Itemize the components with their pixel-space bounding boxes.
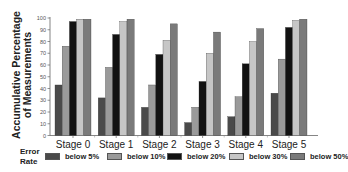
bar (105, 67, 112, 135)
legend-swatch (167, 153, 182, 160)
bar (206, 53, 213, 135)
legend-label: below 10% (127, 152, 165, 161)
y-axis-label-line-2: of Measurements (22, 11, 33, 139)
bar (141, 107, 148, 135)
legend-item: below 50% (290, 151, 348, 161)
bar (113, 34, 120, 135)
bar (62, 46, 69, 135)
x-tick-label: Stage 1 (94, 139, 138, 150)
bar (127, 19, 134, 135)
y-tick-label: 100 (37, 15, 46, 21)
legend-title-line-2: Rate (20, 157, 40, 167)
bar (55, 85, 62, 136)
bar (163, 40, 170, 135)
legend-title-line-1: Error (20, 147, 40, 157)
legend-label: below 50% (310, 152, 348, 161)
bar (242, 64, 249, 136)
bar (249, 42, 256, 136)
bar (271, 93, 278, 135)
bar (228, 117, 235, 136)
bar (192, 107, 199, 135)
bar (300, 19, 307, 135)
legend-item: below 30% (229, 151, 287, 161)
bar (293, 20, 300, 135)
legend-swatch (45, 153, 60, 160)
bar (156, 54, 163, 135)
legend-item: below 5% (45, 151, 99, 161)
x-tick-label: Stage 4 (224, 139, 268, 150)
y-tick-label: 0 (43, 133, 46, 139)
bar (77, 19, 84, 135)
legend-item: below 20% (167, 151, 225, 161)
bar (149, 85, 156, 136)
bar (98, 98, 105, 136)
x-tick-label: Stage 2 (137, 139, 181, 150)
y-axis-label: Accumulative Percentage of Measurements (3, 25, 41, 125)
legend-title: Error Rate (20, 147, 40, 166)
bar (120, 22, 127, 136)
bar (285, 27, 292, 135)
bar (170, 24, 177, 136)
x-tick-label: Stage 3 (181, 139, 225, 150)
legend-label: below 30% (249, 152, 287, 161)
bar (84, 19, 91, 135)
bar (257, 29, 264, 136)
x-tick-label: Stage 0 (51, 139, 95, 150)
x-tick-label: Stage 5 (267, 139, 311, 150)
bar (185, 123, 192, 136)
legend-label: below 20% (187, 152, 225, 161)
legend-label: below 5% (65, 152, 99, 161)
bar (213, 32, 220, 135)
legend-swatch (229, 153, 244, 160)
bar (199, 81, 206, 135)
legend-item: below 10% (107, 151, 165, 161)
bar (69, 22, 76, 136)
legend-swatch (107, 153, 122, 160)
bar (278, 59, 285, 135)
legend-swatch (290, 153, 305, 160)
bar (235, 97, 242, 136)
